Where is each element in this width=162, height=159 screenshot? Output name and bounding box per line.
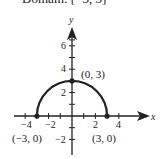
x-tick-label: 4 [116, 119, 121, 130]
point-top [69, 78, 74, 83]
y-tick-label: 4 [61, 63, 66, 74]
y-tick-label: 2 [61, 87, 66, 98]
y-tick-label: −2 [55, 134, 66, 145]
point-label-top: (0, 3) [81, 68, 105, 81]
x-tick-label: −4 [21, 119, 32, 130]
point-left [34, 113, 39, 118]
x-tick-label: −2 [45, 119, 56, 130]
y-axis-label: y [68, 14, 74, 25]
point-label-right: (3, 0) [92, 132, 116, 145]
x-axis-label: x [150, 111, 156, 122]
point-label-left: (−3, 0) [12, 132, 42, 145]
point-right [105, 113, 110, 118]
x-tick-label: 2 [93, 119, 98, 130]
y-tick-label: 6 [61, 40, 66, 51]
graph: y x −4 −2 2 4 6 4 2 −2 (0, 3) (−3, 0) (3… [0, 0, 162, 159]
